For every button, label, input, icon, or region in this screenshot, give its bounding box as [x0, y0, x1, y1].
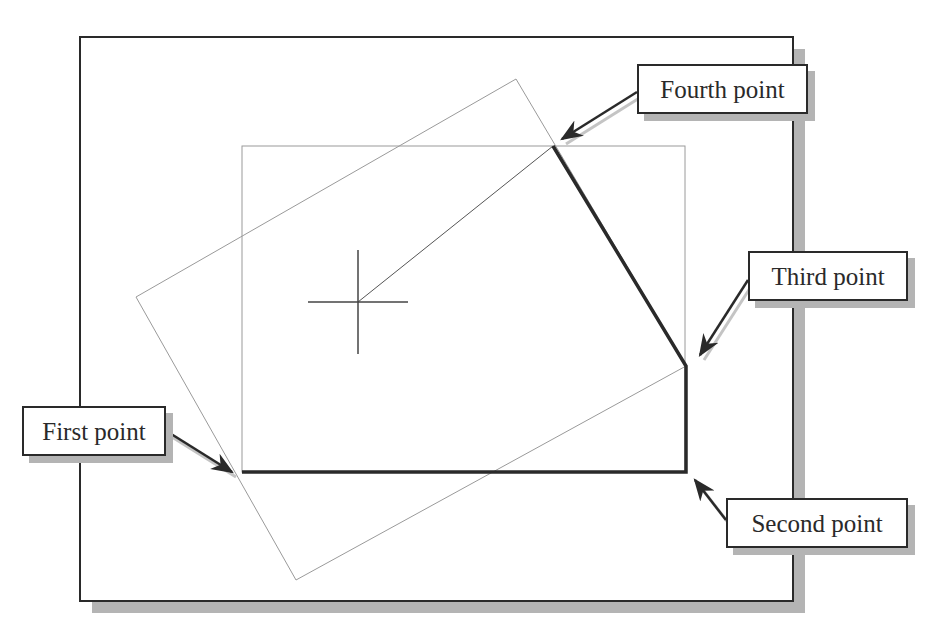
drawing-frame — [80, 37, 793, 601]
callout-third-point: Third point — [748, 251, 908, 301]
callout-second-point: Second point — [726, 498, 908, 548]
callout-label: Third point — [771, 264, 884, 289]
diagram-canvas: First point Second point Third point Fou… — [0, 0, 936, 632]
callout-fourth-point: Fourth point — [637, 64, 808, 114]
callout-first-point: First point — [22, 406, 166, 456]
callout-label: Second point — [751, 511, 882, 536]
callout-label: First point — [42, 419, 146, 444]
callout-label: Fourth point — [660, 77, 784, 102]
